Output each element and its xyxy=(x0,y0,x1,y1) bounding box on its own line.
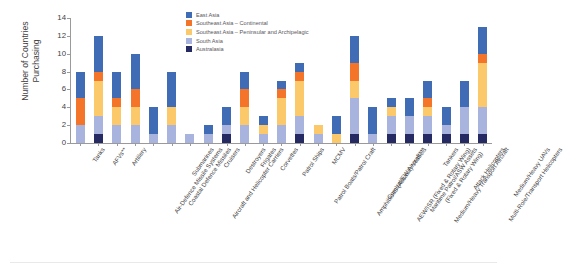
bar-segment xyxy=(387,98,396,107)
bar-segment xyxy=(240,125,249,143)
bar-segment xyxy=(460,134,469,143)
bar-segment xyxy=(350,134,359,143)
stacked-bar[interactable] xyxy=(295,63,304,143)
bar-segment xyxy=(423,134,432,143)
stacked-bar[interactable] xyxy=(204,125,213,143)
bar-segment xyxy=(131,107,140,125)
bar-segment xyxy=(387,107,396,116)
bar-segment xyxy=(112,98,121,107)
x-axis-label-line: Air-Defence Missile Systems xyxy=(173,146,224,215)
bar-segment xyxy=(94,36,103,72)
bar-slot xyxy=(217,18,235,143)
y-axis-tick-label: 10 xyxy=(46,50,66,58)
bar-slot xyxy=(162,18,180,143)
bar-segment xyxy=(295,63,304,72)
bar-segment xyxy=(204,134,213,143)
stacked-bar[interactable] xyxy=(112,72,121,143)
bar-segment xyxy=(222,125,231,134)
bar-segment xyxy=(167,125,176,143)
stacked-bar[interactable] xyxy=(460,81,469,143)
x-axis-label: Artillery xyxy=(130,146,148,167)
bar-slot xyxy=(199,18,217,143)
x-axis-label-line: Artillery xyxy=(130,146,148,167)
x-axis-label: MCMV xyxy=(330,146,347,166)
stacked-bar[interactable] xyxy=(405,98,414,143)
bar-segment xyxy=(204,125,213,134)
bar-segment xyxy=(277,81,286,90)
legend-swatch-icon xyxy=(186,12,192,18)
stacked-bar[interactable] xyxy=(314,125,323,143)
bar-segment xyxy=(387,116,396,134)
bar-segment xyxy=(387,134,396,143)
stacked-bar[interactable] xyxy=(478,27,487,143)
bar-segment xyxy=(295,116,304,134)
bar-segment xyxy=(167,107,176,125)
bar-segment xyxy=(112,107,121,125)
stacked-bar[interactable] xyxy=(240,72,249,143)
x-axis-label-line: Combat/EW Aircraft*** xyxy=(385,146,426,200)
bar-slot xyxy=(236,18,254,143)
bar-segment xyxy=(460,81,469,108)
bar-segment xyxy=(368,107,377,134)
bar-slot xyxy=(419,18,437,143)
y-axis-tick-mark xyxy=(67,72,70,73)
stacked-bar[interactable] xyxy=(368,107,377,143)
y-axis-tick-label: 4 xyxy=(46,103,66,111)
bar-segment xyxy=(94,134,103,143)
bar-slot xyxy=(327,18,345,143)
stacked-bar[interactable] xyxy=(423,81,432,143)
bar-segment xyxy=(350,63,359,81)
bar-segment xyxy=(94,81,103,117)
y-axis-tick-label: 8 xyxy=(46,68,66,76)
stacked-bar[interactable] xyxy=(442,107,451,143)
stacked-bar[interactable] xyxy=(222,107,231,143)
bar-segment xyxy=(442,125,451,134)
bar-slot xyxy=(291,18,309,143)
stacked-bar[interactable] xyxy=(185,134,194,143)
y-axis-tick-label: 6 xyxy=(46,85,66,93)
bar-segment xyxy=(222,107,231,125)
x-axis-label: Air-Defence Missile Systems xyxy=(173,146,224,215)
bar-slot xyxy=(309,18,327,143)
x-axis-label: Tanks xyxy=(91,146,106,163)
bar-slot xyxy=(437,18,455,143)
stacked-bar[interactable] xyxy=(94,36,103,143)
stacked-bar[interactable] xyxy=(277,81,286,143)
bar-segment xyxy=(277,89,286,98)
bar-segment xyxy=(332,134,341,143)
footnote-divider xyxy=(10,262,497,263)
stacked-bar[interactable] xyxy=(332,116,341,143)
bar-segment xyxy=(76,98,85,125)
bar-slot xyxy=(89,18,107,143)
bar-segment xyxy=(405,134,414,143)
bar-segment xyxy=(350,81,359,99)
bar-segment xyxy=(240,89,249,107)
x-axis-label-line: Tanks xyxy=(91,146,106,163)
bar-segment xyxy=(405,98,414,116)
stacked-bar[interactable] xyxy=(259,116,268,143)
bar-segment xyxy=(478,27,487,54)
y-axis-tick-mark xyxy=(67,18,70,19)
bar-segment xyxy=(185,134,194,143)
bar-slot xyxy=(144,18,162,143)
bar-segment xyxy=(442,107,451,125)
stacked-bar[interactable] xyxy=(131,54,140,143)
stacked-bar[interactable] xyxy=(350,36,359,143)
x-axis-label-line: Multi-Role/Transport Helicopters xyxy=(506,146,562,223)
bar-slot xyxy=(400,18,418,143)
bar-segment xyxy=(76,72,85,99)
stacked-bar[interactable] xyxy=(167,72,176,143)
bar-slot xyxy=(181,18,199,143)
bar-segment xyxy=(112,125,121,143)
x-axis-labels: TanksAFVs**ArtilleryAir-Defence Missile … xyxy=(71,146,492,256)
bar-segment xyxy=(131,54,140,90)
bar-segment xyxy=(295,81,304,117)
stacked-bar[interactable] xyxy=(149,107,158,143)
bar-segment xyxy=(222,134,231,143)
y-axis-tick-label: 2 xyxy=(46,121,66,129)
stacked-bar[interactable] xyxy=(387,98,396,143)
bar-slot xyxy=(345,18,363,143)
bar-segment xyxy=(314,134,323,143)
stacked-bar[interactable] xyxy=(76,72,85,143)
bar-segment xyxy=(478,63,487,108)
